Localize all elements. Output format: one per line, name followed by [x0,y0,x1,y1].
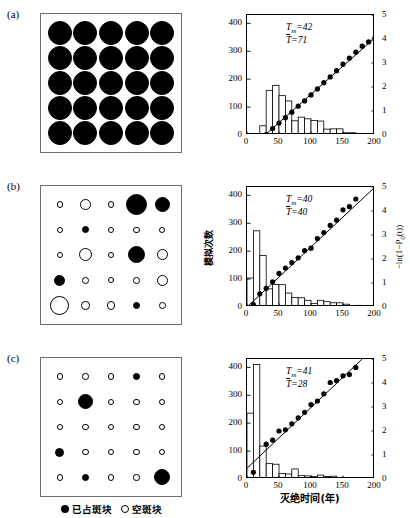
x-axis-tick-label: 50 [265,136,291,146]
lattice-cell [124,192,150,217]
occupied-patch-icon [99,21,123,45]
empty-patch-icon [108,277,114,283]
legend-item-empty: 空斑块 [121,502,162,516]
annotation-tm: Tm=41 [286,366,312,379]
lattice-a [40,13,182,153]
lattice-cell [124,268,150,293]
lattice-legend: 已占斑块 空斑块 [40,502,182,516]
lattice-cell [149,465,175,490]
y-axis-tick-label: 300 [208,389,246,399]
occupied-patch-icon [73,96,97,120]
lattice-cell [47,121,73,146]
lattice-cell [47,70,73,95]
x-axis-tick-label: 200 [361,480,387,490]
empty-patch-icon [79,248,92,261]
occupied-patch-icon [99,121,123,145]
lattice-cell [98,121,124,146]
chart-a: 0100200300400012345050100150200Tm=42T=71 [208,8,398,166]
panel-c: (c) 已占斑块 空斑块 010020030040001234505010015… [0,344,405,516]
y-axis-tick-label: 100 [208,101,246,111]
x-axis-tick-label: 150 [329,480,355,490]
occupied-patch-icon [126,194,147,215]
y2-axis-tick-label: 4 [378,377,410,387]
occupied-patch-icon [99,46,123,70]
occupied-patch-icon [150,46,174,70]
occupied-patch-icon [150,21,174,45]
lattice-cell [149,192,175,217]
empty-patch-icon [108,424,114,430]
lattice-cell [124,242,150,267]
legend-item-occupied: 已占斑块 [61,502,112,516]
tbar-value: =71 [291,35,307,45]
lattice-cell [47,440,73,465]
empty-patch-icon [57,373,63,379]
y2-axis-tick-label: 3 [378,401,410,411]
empty-patch-icon [82,449,88,455]
occupied-patch-icon [125,96,149,120]
lattice-cell [98,465,124,490]
x-axis-tick-label: 100 [297,136,323,146]
lattice-cell [98,20,124,45]
lattice-cell [73,440,99,465]
lattice-cell [73,465,99,490]
annotation-tbar: T=40 [286,207,307,217]
empty-patch-icon [133,449,139,455]
lattice-cell [98,45,124,70]
lattice-cell [47,465,73,490]
lattice-cell [47,217,73,242]
lattice-cell [47,45,73,70]
empty-patch-icon [50,296,69,315]
lattice-c [40,357,182,497]
lattice-cell [98,293,124,318]
empty-patch-icon [159,424,165,430]
empty-patch-icon [108,201,114,207]
occupied-patch-icon [150,71,174,95]
y2-axis-tick-label: 2 [378,425,410,435]
lattice-cell [47,20,73,45]
panel-a-label: (a) [7,8,19,20]
occupied-patch-icon [82,226,89,233]
panel-c-label: (c) [7,352,19,364]
lattice-cell [73,192,99,217]
empty-patch-icon [157,249,168,260]
legend-empty-label: 空斑块 [132,502,162,516]
lattice-b-grid [41,186,181,324]
lattice-cell [124,465,150,490]
occupied-patch-icon [150,96,174,120]
occupied-patch-icon [82,474,89,481]
occupied-patch-icon [73,21,97,45]
occupied-patch-icon [48,46,72,70]
tm-symbol: Tm [286,194,296,204]
empty-patch-icon [157,275,168,286]
x-axis-tick-label: 200 [361,308,387,318]
occupied-patch-icon [133,302,140,309]
lattice-b [40,185,182,325]
lattice-cell [149,20,175,45]
y2-axis-tick-label: 5 [378,181,410,191]
occupied-patch-icon [78,394,93,409]
empty-patch-icon [82,424,88,430]
empty-patch-icon [82,277,89,284]
occupied-patch-icon [150,121,174,145]
empty-patch-icon [133,399,139,405]
y2-axis-tick-label: 5 [378,9,410,19]
lattice-cell [149,389,175,414]
empty-patch-icon [107,301,115,309]
empty-patch-icon [108,399,114,405]
chart-b: 0100200300400012345050100150200Tm=40T=40… [208,180,398,338]
lattice-cell [149,364,175,389]
empty-patch-icon [108,373,114,379]
x-axis-tick-label: 0 [233,480,259,490]
lattice-cell [73,364,99,389]
tbar-symbol: T [286,379,291,389]
lattice-cell [73,268,99,293]
y2-axis-label: −ln(1−P0(t)) [394,204,406,290]
lattice-cell [149,121,175,146]
panel-b-label: (b) [7,180,20,192]
empty-patch-icon [159,449,165,455]
x-axis-tick-label: 100 [297,308,323,318]
lattice-cell [124,364,150,389]
lattice-a-grid [41,14,181,152]
lattice-cell [47,242,73,267]
lattice-cell [73,414,99,439]
